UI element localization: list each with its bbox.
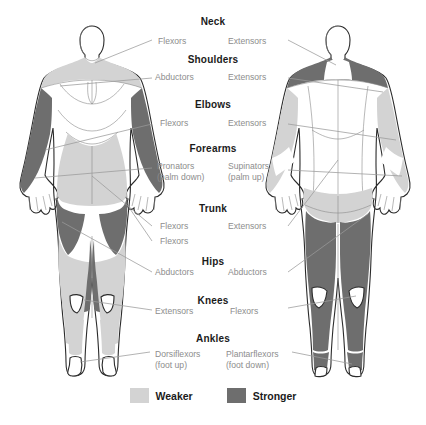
legend-label-weaker: Weaker <box>156 390 193 402</box>
legend-swatch-stronger <box>227 388 246 403</box>
legend: Weaker Stronger <box>0 388 426 403</box>
legend-item-weaker: Weaker <box>130 388 193 403</box>
anatomy-figures: .ol { stroke:#2b2b2b; stroke-width:1.1; … <box>0 0 426 425</box>
diagram-canvas: .ol { stroke:#2b2b2b; stroke-width:1.1; … <box>0 0 426 425</box>
legend-label-stronger: Stronger <box>253 390 297 402</box>
legend-swatch-weaker <box>130 388 149 403</box>
legend-item-stronger: Stronger <box>227 388 297 403</box>
posterior-figure <box>266 26 410 377</box>
